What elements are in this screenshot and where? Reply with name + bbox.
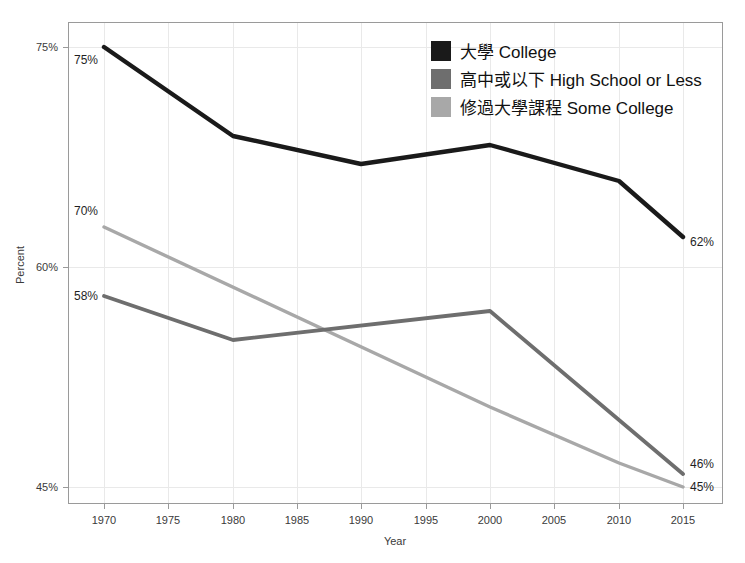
legend-label-some-college: 修過大學課程 Some College bbox=[460, 99, 674, 118]
legend-swatch-some-college bbox=[431, 97, 451, 117]
y-tick-label-60: 60% bbox=[36, 261, 58, 273]
y-tick-label-75: 75% bbox=[36, 41, 58, 53]
point-label-college-start: 75% bbox=[74, 53, 98, 67]
x-tick-label-1980: 1980 bbox=[221, 514, 245, 526]
x-axis-ticks: 1970 1975 1980 1985 1990 1995 2000 2005 … bbox=[92, 504, 695, 526]
line-chart: 75% 60% 45% 1970 1975 1980 1985 1990 199… bbox=[0, 0, 745, 563]
x-axis-title: Year bbox=[384, 535, 407, 547]
point-label-highschool-start: 58% bbox=[74, 289, 98, 303]
x-tick-label-2015: 2015 bbox=[671, 514, 695, 526]
legend-label-high-school: 高中或以下 High School or Less bbox=[460, 71, 702, 90]
x-tick-label-2005: 2005 bbox=[542, 514, 566, 526]
chart-canvas: 75% 60% 45% 1970 1975 1980 1985 1990 199… bbox=[0, 0, 745, 563]
point-label-highschool-end: 46% bbox=[690, 457, 714, 471]
vertical-gridlines bbox=[104, 22, 683, 504]
legend-label-college: 大學 College bbox=[460, 43, 556, 62]
x-tick-label-1990: 1990 bbox=[349, 514, 373, 526]
x-tick-label-2010: 2010 bbox=[607, 514, 631, 526]
y-tick-label-45: 45% bbox=[36, 481, 58, 493]
legend-swatch-high-school bbox=[431, 69, 451, 89]
chart-legend: 大學 College 高中或以下 High School or Less 修過大… bbox=[431, 41, 702, 118]
x-tick-label-1975: 1975 bbox=[156, 514, 180, 526]
point-label-somecollege-start: 70% bbox=[74, 204, 98, 218]
x-tick-label-1995: 1995 bbox=[414, 514, 438, 526]
x-tick-label-2000: 2000 bbox=[478, 514, 502, 526]
legend-swatch-college bbox=[431, 41, 451, 61]
plot-area-border bbox=[69, 23, 723, 504]
x-tick-label-1970: 1970 bbox=[92, 514, 116, 526]
series-line-some-college bbox=[104, 227, 683, 487]
point-labels: 75% 70% 58% 62% 46% 45% bbox=[74, 53, 714, 494]
y-axis-ticks: 75% 60% 45% bbox=[36, 41, 68, 493]
series-line-high-school bbox=[104, 296, 683, 474]
y-axis-title: Percent bbox=[14, 246, 26, 284]
point-label-somecollege-end: 45% bbox=[690, 480, 714, 494]
point-label-college-end: 62% bbox=[690, 235, 714, 249]
x-tick-label-1985: 1985 bbox=[285, 514, 309, 526]
